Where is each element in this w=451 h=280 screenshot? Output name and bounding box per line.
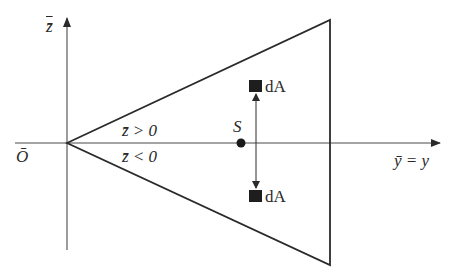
centroid-label: S (233, 118, 242, 135)
y-axis-label: ȳ = y (394, 152, 429, 169)
diagram-canvas (0, 0, 451, 280)
region-lower-label: z̄ < 0 (122, 148, 157, 165)
upper-dA-label: dA (265, 78, 286, 95)
centroid-point (237, 139, 246, 148)
z-axis-label: z̄ (46, 18, 53, 35)
upper-area-element (249, 80, 262, 92)
origin-label: Ō (16, 148, 28, 165)
lower-area-element (249, 190, 262, 202)
region-upper-label: z̄ > 0 (122, 122, 157, 139)
lower-dA-label: dA (265, 188, 286, 205)
